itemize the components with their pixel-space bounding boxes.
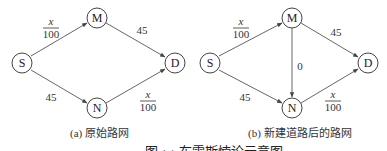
svg-text:D: D — [364, 56, 373, 70]
edge-label-n-d: x 100 — [140, 88, 157, 113]
edge-label-s-m: x 100 — [43, 15, 60, 40]
node-n: N — [87, 98, 107, 118]
subfigure-b-caption: (b) 新建道路后的路网 — [248, 124, 352, 140]
svg-text:N: N — [93, 101, 102, 115]
node-d: D — [358, 53, 378, 73]
subfigure-a: x 100 45 45 x 100 S M D N — [12, 8, 185, 118]
edge-m-d — [301, 23, 358, 57]
edge-m-d — [106, 23, 165, 57]
node-m: M — [87, 8, 107, 28]
svg-text:100: 100 — [43, 28, 60, 40]
svg-text:D: D — [171, 56, 180, 70]
edge-label-s-n: 45 — [46, 91, 58, 103]
edge-s-m — [219, 23, 282, 56]
edge-label-s-m: x 100 — [233, 15, 250, 40]
edge-n-d — [301, 69, 358, 103]
node-m: M — [282, 8, 302, 28]
figure-caption: 图 · · 布雷斯悖论示意图 — [145, 141, 283, 151]
svg-text:S: S — [19, 56, 26, 70]
edge-label-m-d: 45 — [137, 24, 149, 36]
edge-label-s-n: 45 — [240, 91, 252, 103]
svg-text:x: x — [48, 15, 54, 27]
edge-label-m-n: 0 — [297, 60, 303, 72]
node-n: N — [282, 98, 302, 118]
svg-text:100: 100 — [233, 28, 250, 40]
node-s: S — [200, 53, 220, 73]
svg-text:S: S — [207, 56, 214, 70]
edge-s-n — [219, 70, 282, 103]
svg-text:N: N — [288, 101, 297, 115]
subfigure-a-caption: (a) 原始路网 — [70, 124, 129, 140]
svg-text:x: x — [238, 15, 244, 27]
edge-label-n-d: x 100 — [325, 88, 342, 113]
subfigure-b: x 100 45 0 45 x 100 S M D N — [200, 8, 378, 118]
svg-text:100: 100 — [325, 101, 342, 113]
svg-text:x: x — [145, 88, 151, 100]
svg-text:M: M — [287, 11, 298, 25]
node-s: S — [12, 53, 32, 73]
edge-s-n — [31, 70, 87, 103]
svg-text:M: M — [92, 11, 103, 25]
edge-n-d — [106, 69, 165, 103]
edge-label-m-d: 45 — [331, 26, 343, 38]
svg-text:100: 100 — [140, 101, 157, 113]
svg-text:x: x — [330, 88, 336, 100]
node-d: D — [165, 53, 185, 73]
